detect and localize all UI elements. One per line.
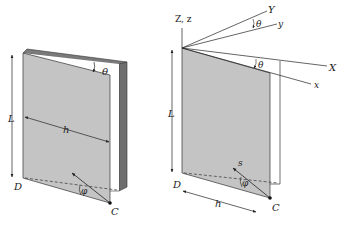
z-axis-label: Z, z <box>175 14 192 24</box>
width-label: h <box>215 198 221 209</box>
x-axis-label: x <box>314 80 319 90</box>
corner-c-label: C <box>111 206 119 217</box>
X-axis-label: X <box>328 62 337 73</box>
y-axis-label: y <box>277 19 284 29</box>
cover-side-edge <box>119 62 127 191</box>
s-vector-label: s <box>238 158 243 168</box>
phi-label: φ <box>81 186 88 196</box>
theta-side-label: θ <box>258 60 264 70</box>
corner-c-label: C <box>272 202 280 213</box>
point-c <box>108 201 112 205</box>
left-panel: θ L h φ D C <box>7 49 127 217</box>
theta-arc-side <box>254 59 256 68</box>
width-label: h <box>63 124 69 135</box>
right-panel: Z, z Y y θ X x θ L s φ h D C <box>167 4 337 213</box>
folded-plate-diagram: θ L h φ D C Z, z Y y θ X <box>0 0 340 231</box>
point-c <box>268 196 272 200</box>
length-label: L <box>7 113 15 124</box>
Y-axis-label: Y <box>268 4 276 15</box>
corner-d-label: D <box>172 179 181 190</box>
theta-arc-top <box>253 19 254 28</box>
phi-label: φ <box>242 178 249 188</box>
theta-top-label: θ <box>256 19 262 29</box>
length-label: L <box>167 108 175 119</box>
theta-label: θ <box>102 66 108 77</box>
page-plate <box>182 48 270 198</box>
back-panel-outline <box>270 61 280 184</box>
corner-d-label: D <box>13 181 22 192</box>
